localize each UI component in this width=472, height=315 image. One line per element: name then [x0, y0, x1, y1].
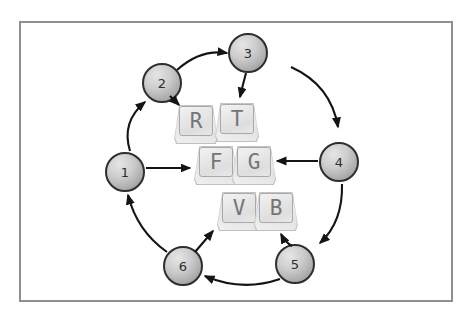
keycap-G: G	[232, 146, 276, 185]
key-letter: R	[190, 109, 203, 133]
key-letter: V	[233, 196, 246, 220]
keycap-top-face: B	[259, 193, 293, 223]
key-letter: B	[270, 196, 283, 220]
step-number: 4	[335, 155, 343, 170]
step-number: 2	[158, 76, 166, 91]
keycap-top-face: V	[222, 193, 256, 223]
keycap-R: R	[174, 105, 218, 144]
step-number: 3	[244, 46, 252, 61]
keycap-T: T	[215, 103, 259, 142]
figure-page: R T F G V B 1 2 3 4 5 6	[0, 0, 472, 315]
step-number: 6	[179, 259, 187, 274]
step-node-2: 2	[142, 63, 182, 103]
step-node-5: 5	[275, 244, 315, 284]
keycap-top-face: F	[199, 147, 233, 177]
step-node-6: 6	[163, 246, 203, 286]
step-number: 5	[291, 257, 299, 272]
step-node-3: 3	[228, 33, 268, 73]
keycap-top-face: T	[220, 104, 254, 134]
step-node-4: 4	[319, 142, 359, 182]
keycap-B: B	[254, 192, 298, 231]
key-letter: G	[248, 150, 261, 174]
step-node-1: 1	[105, 152, 145, 192]
step-number: 1	[121, 165, 129, 180]
key-letter: F	[210, 150, 223, 174]
keycap-top-face: G	[237, 147, 271, 177]
key-letter: T	[231, 107, 244, 131]
keycap-top-face: R	[179, 106, 213, 136]
